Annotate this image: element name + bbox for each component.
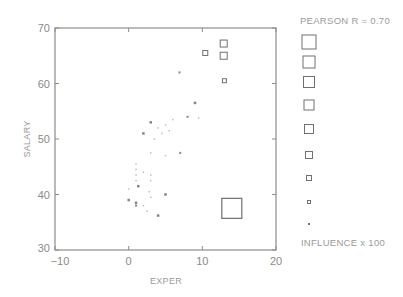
data-point-marker — [157, 127, 159, 128]
y-tick-label: 60 — [38, 78, 50, 90]
x-tick-label: 20 — [270, 255, 282, 267]
legend-square-icon — [303, 56, 315, 68]
data-point-marker — [150, 174, 152, 176]
data-point-marker — [135, 202, 138, 205]
data-point-marker — [150, 180, 152, 182]
y-tick-label: 30 — [38, 242, 50, 254]
data-point-marker — [150, 121, 153, 124]
data-point-marker — [178, 71, 180, 73]
data-point-marker — [172, 119, 174, 121]
data-point-marker — [137, 185, 140, 188]
data-point-marker — [128, 188, 129, 190]
plot-frame — [55, 28, 276, 250]
axis-ticks: −10010203040506070 — [38, 22, 282, 267]
influence-square-marker — [222, 79, 226, 83]
influence-legend — [302, 35, 316, 225]
y-tick-label: 70 — [38, 22, 50, 34]
x-tick-label: 10 — [196, 255, 208, 267]
data-point-marker — [149, 191, 151, 193]
legend-square-icon — [302, 35, 316, 49]
influence-square-marker — [220, 40, 227, 47]
reference-size-marker — [222, 198, 242, 218]
data-point-marker — [154, 138, 156, 140]
data-point-marker — [135, 169, 137, 171]
y-tick-label: 50 — [38, 133, 50, 145]
data-point-marker — [135, 163, 137, 165]
data-point-marker — [135, 180, 137, 182]
y-tick-label: 40 — [38, 189, 50, 201]
data-point-marker — [150, 197, 152, 199]
data-point-marker — [146, 210, 148, 212]
x-tick-label: 0 — [126, 255, 132, 267]
data-point-marker — [135, 174, 137, 176]
x-tick-label: −10 — [51, 255, 70, 267]
influence-square-marker — [220, 52, 227, 59]
data-point-marker — [157, 214, 160, 217]
legend-square-icon — [306, 152, 313, 159]
data-point-marker — [198, 117, 200, 119]
data-point-marker — [150, 152, 152, 154]
legend-square-icon — [305, 125, 314, 134]
legend-dot-icon — [308, 223, 310, 225]
pearson-r-annotation: PEARSON R = 0.70 — [300, 15, 390, 26]
data-point-marker — [164, 193, 167, 196]
plot-border — [55, 28, 276, 250]
data-point-marker — [168, 130, 170, 132]
legend-title: INFLUENCE x 100 — [301, 237, 385, 248]
data-point-marker — [135, 205, 137, 207]
data-point-marker — [194, 102, 197, 105]
scatter-chart: −10010203040506070 EXPER SALARY PEARSON … — [0, 0, 403, 297]
x-axis-label: EXPER — [150, 276, 182, 286]
data-point-marker — [161, 133, 163, 135]
data-point-marker — [165, 155, 167, 157]
legend-square-icon — [307, 176, 312, 181]
data-point-marker — [127, 199, 129, 202]
legend-square-icon — [308, 201, 311, 204]
y-axis-label: SALARY — [22, 120, 32, 157]
data-point-marker — [179, 152, 181, 154]
data-point-marker — [187, 116, 189, 118]
data-point-marker — [143, 172, 145, 174]
influence-square-marker — [203, 50, 208, 55]
data-points — [127, 40, 241, 218]
data-point-marker — [142, 132, 145, 135]
data-point-marker — [143, 205, 145, 207]
data-point-marker — [165, 124, 167, 126]
legend-square-icon — [304, 100, 314, 110]
legend-square-icon — [304, 77, 315, 88]
